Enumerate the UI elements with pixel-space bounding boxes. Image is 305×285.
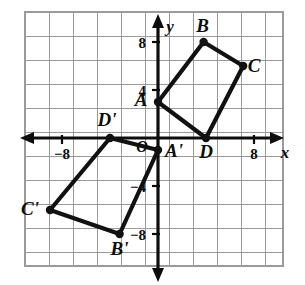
- vertex-dot-B: [199, 38, 207, 46]
- origin-label: O: [136, 138, 148, 155]
- vertex-dot-Bprime: [115, 230, 123, 238]
- y-axis-arrow-up: [152, 14, 164, 28]
- vertex-label-B: B: [195, 15, 209, 36]
- vertex-dot-Dprime: [106, 134, 114, 142]
- vertex-dot-C: [239, 62, 247, 70]
- y-tick-label-0: 8: [139, 35, 147, 51]
- vertex-label-D: D: [198, 141, 213, 162]
- polygon-ABCD: [158, 42, 243, 138]
- vertex-dot-Aprime: [154, 146, 162, 154]
- vertex-label-Aprime: A': [164, 140, 183, 161]
- figure-svg: 84−4−8−88xyOABCDA'B'C'D': [0, 0, 305, 285]
- y-tick-label-3: −8: [130, 227, 146, 243]
- vertex-dot-Cprime: [46, 206, 54, 214]
- x-axis-arrow-left: [20, 132, 34, 144]
- x-tick-label-0: −8: [54, 146, 70, 162]
- y-axis-label: y: [164, 17, 174, 36]
- vertex-label-Cprime: C': [21, 198, 39, 219]
- vertex-label-A: A: [134, 89, 148, 110]
- y-tick-label-2: −4: [130, 179, 147, 195]
- x-axis-label: x: [280, 143, 290, 162]
- x-tick-label-1: 8: [250, 146, 258, 162]
- vertex-label-Dprime: D': [97, 109, 117, 130]
- vertex-label-Bprime: B': [110, 238, 129, 259]
- coordinate-plane-figure: 84−4−8−88xyOABCDA'B'C'D': [0, 0, 305, 285]
- vertex-dot-A: [154, 98, 162, 106]
- vertex-label-C: C: [248, 55, 261, 76]
- y-axis-arrow-down: [152, 268, 164, 282]
